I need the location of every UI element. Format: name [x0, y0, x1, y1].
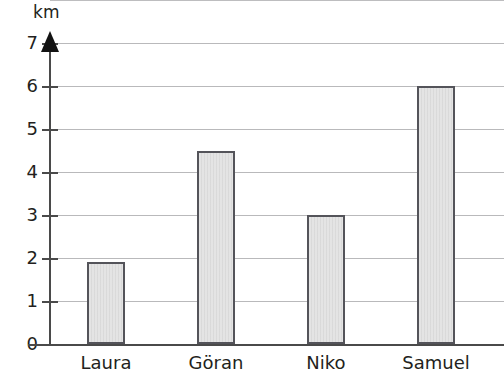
- y-axis-tick-label-wrap: 1: [0, 292, 38, 310]
- y-axis-unit-label: km: [33, 2, 60, 22]
- gridline: [50, 0, 504, 1]
- y-axis-arrow-icon: [41, 31, 59, 52]
- y-axis-tick-label-wrap: 7: [0, 34, 38, 52]
- y-axis-tick-label: 6: [12, 77, 38, 95]
- x-axis-label-göran: Göran: [161, 352, 271, 374]
- y-axis-tick-label-wrap: 4: [0, 163, 38, 181]
- y-axis-line: [49, 46, 51, 346]
- bar-niko: [307, 215, 345, 344]
- y-axis-tick-label-wrap: 5: [0, 120, 38, 138]
- y-axis-tick-label: 5: [12, 120, 38, 138]
- bar-samuel: [417, 86, 455, 344]
- y-axis-tick-label: 1: [12, 292, 38, 310]
- gridline: [50, 43, 504, 44]
- x-axis-baseline: [28, 344, 504, 346]
- y-axis-tick-label: 4: [12, 163, 38, 181]
- y-axis-tick-label-wrap: 2: [0, 249, 38, 267]
- y-axis-tick-label: 2: [12, 249, 38, 267]
- y-axis-tick-label-wrap: 3: [0, 206, 38, 224]
- x-axis-label-niko: Niko: [271, 352, 381, 374]
- x-axis-label-samuel: Samuel: [381, 352, 491, 374]
- y-axis-tick-label: 3: [12, 206, 38, 224]
- bar-chart: km 01234567 LauraGöranNikoSamuel: [0, 0, 504, 383]
- bar-göran: [197, 151, 235, 345]
- y-axis-tick-label-wrap: 6: [0, 77, 38, 95]
- x-axis-label-laura: Laura: [51, 352, 161, 374]
- y-axis-tick-label: 7: [12, 34, 38, 52]
- bar-laura: [87, 262, 125, 344]
